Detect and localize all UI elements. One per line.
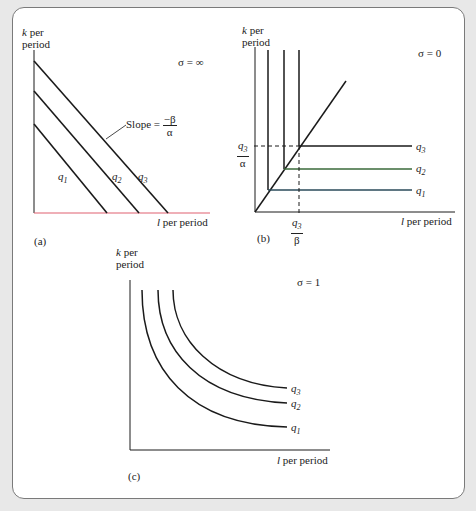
panel-a-sigma: σ = ∞ <box>178 56 203 68</box>
panel-b-q2: q2 <box>416 162 426 179</box>
sub: 3 <box>144 176 148 185</box>
panel-c-x-label: l per period <box>277 454 328 466</box>
panel-a-slope-label: Slope = −βα <box>126 113 177 138</box>
y-tick-fraction: q3α <box>237 139 249 169</box>
y-unit-2: period <box>242 36 270 48</box>
slope-den: α <box>163 126 177 138</box>
panel-b-x-label: l per period <box>401 215 452 227</box>
sub: 1 <box>297 427 301 436</box>
y-unit-2: period <box>116 258 144 270</box>
y-unit: per <box>247 24 264 36</box>
sub: 2 <box>297 403 301 412</box>
panel-b-y-tick: q3α <box>237 139 249 169</box>
den: α <box>237 157 249 169</box>
slope-text: Slope = <box>126 118 163 130</box>
sub: 3 <box>422 146 426 155</box>
sub: 3 <box>298 222 302 231</box>
x-unit: per period <box>404 215 452 227</box>
panel-a-q1: q1 <box>58 170 68 187</box>
sub: 1 <box>64 176 68 185</box>
panel-b-q1: q1 <box>416 184 426 201</box>
den: β <box>291 234 303 246</box>
panel-b-y-label: k perperiod <box>242 24 270 48</box>
slope-fraction: −βα <box>163 113 177 138</box>
diagram-lines <box>0 0 476 511</box>
panel-a-q3: q3 <box>138 170 148 187</box>
sub: 1 <box>422 190 426 199</box>
x-tick-fraction: q3β <box>291 216 303 246</box>
x-unit: per period <box>160 216 208 228</box>
panel-b-sigma: σ = 0 <box>418 47 441 59</box>
panel-a-lines <box>34 50 210 213</box>
panel-c-tag: (c) <box>128 470 140 482</box>
panel-a-tag: (a) <box>34 235 46 247</box>
panel-a-x-label: l per period <box>157 216 208 228</box>
slope-num: −β <box>163 113 177 126</box>
sub: 3 <box>297 388 301 397</box>
panel-a-y-label: k perperiod <box>22 26 50 50</box>
y-unit: per <box>121 246 138 258</box>
panel-b-tag: (b) <box>257 232 270 244</box>
x-unit: per period <box>280 454 328 466</box>
y-unit-2: period <box>22 38 50 50</box>
panel-c-q2: q2 <box>291 397 301 414</box>
num: q3 <box>237 139 249 157</box>
panel-a-q2: q2 <box>112 170 122 187</box>
panel-c-q1: q1 <box>291 421 301 438</box>
panel-c-y-label: k perperiod <box>116 246 144 270</box>
panel-b-x-tick: q3β <box>291 216 303 246</box>
panel-c-sigma: σ = 1 <box>297 276 320 288</box>
sub: 2 <box>422 168 426 177</box>
y-unit: per <box>27 26 44 38</box>
panel-b-q3: q3 <box>416 140 426 157</box>
sub: 3 <box>244 145 248 154</box>
num: q3 <box>291 216 303 234</box>
sub: 2 <box>118 176 122 185</box>
